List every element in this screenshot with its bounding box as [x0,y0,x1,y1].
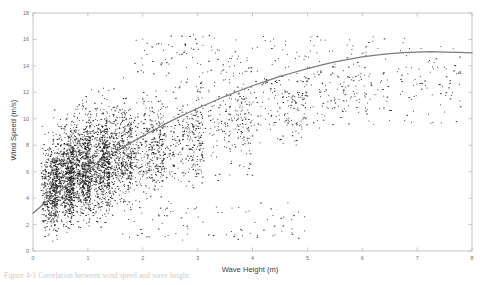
data-point [59,180,60,181]
data-point [159,136,161,137]
data-point [201,173,202,174]
data-point [98,164,99,165]
data-point [150,144,151,145]
data-point [70,177,72,178]
data-point [356,100,357,101]
data-point [72,190,73,191]
data-point [279,119,280,120]
data-point [106,188,107,189]
data-point [297,73,298,74]
data-point [208,116,210,117]
data-point [61,164,62,165]
data-point [105,202,106,203]
data-point [98,91,99,92]
data-point [92,136,94,137]
data-point [163,106,164,107]
data-point [202,124,203,125]
data-point [116,162,118,163]
data-point [110,197,112,198]
data-point [55,146,57,147]
data-point [124,147,125,148]
data-point [86,172,87,173]
data-point [120,124,121,125]
data-point [57,216,58,217]
data-point [74,157,75,158]
data-point [101,206,103,207]
data-point [103,180,104,181]
data-point [77,192,78,193]
data-point [124,210,125,211]
data-point [182,127,183,128]
data-point [345,87,346,88]
data-point [172,46,173,47]
data-point [53,210,54,211]
data-point [160,100,161,101]
data-point [45,174,46,175]
data-point [112,162,113,163]
data-point [151,47,153,48]
data-point [232,208,233,209]
data-point [148,130,149,131]
data-point [153,154,154,155]
data-point [100,170,101,171]
data-point [225,133,226,134]
data-point [203,148,204,149]
data-point [101,157,103,158]
data-point [88,133,89,134]
data-point [76,125,77,126]
data-point [87,144,88,145]
data-point [144,113,146,114]
data-point [166,215,168,216]
data-point [161,145,163,146]
data-point [57,239,58,240]
data-point [135,177,136,178]
data-point [45,134,46,135]
data-point [56,202,57,203]
data-point [120,169,121,170]
data-point [49,212,50,213]
data-point [161,196,163,197]
data-point [239,165,240,166]
data-point [124,120,125,121]
data-point [166,136,167,137]
data-point [99,168,100,169]
data-point [122,120,124,121]
data-point [351,96,352,97]
data-point [62,212,64,213]
data-point [87,187,89,188]
data-point [77,191,79,192]
data-point [88,197,90,198]
data-point [102,144,103,145]
data-point [450,98,452,99]
data-point [99,173,100,174]
data-point [235,110,236,111]
data-point [104,140,105,141]
data-point [47,166,48,167]
data-point [200,87,202,88]
data-point [65,168,66,169]
data-point [196,125,197,126]
data-point [183,131,185,132]
data-point [307,67,308,68]
data-point [191,156,192,157]
data-point [263,92,264,93]
data-point [89,179,91,180]
data-point [197,126,198,127]
figure-caption: Figure 4-3 Correlation between wind spee… [4,272,334,280]
data-point [71,167,72,168]
data-point [263,83,264,84]
data-point [344,82,345,83]
data-point [296,52,297,53]
data-point [92,163,93,164]
data-point [84,194,85,195]
data-point [151,174,153,175]
data-point [110,122,111,123]
data-point [203,132,204,133]
data-point [106,186,107,187]
data-point [96,184,97,185]
data-point [59,160,60,161]
data-point [53,191,55,192]
data-point [128,110,129,111]
data-point [89,149,91,150]
data-point [83,120,84,121]
